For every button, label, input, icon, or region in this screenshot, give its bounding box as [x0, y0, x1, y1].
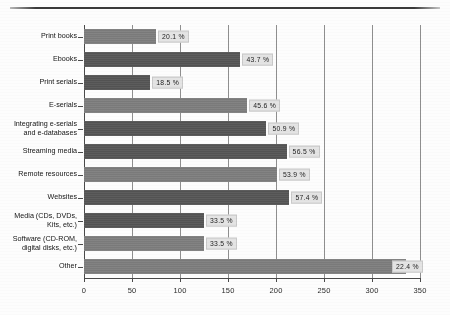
x-axis-line [84, 278, 420, 279]
bar[interactable] [84, 167, 277, 182]
bar-texture [84, 29, 156, 44]
bar-row[interactable]: 57.4 % [84, 190, 420, 205]
bar[interactable] [84, 29, 156, 44]
category-tick [78, 244, 83, 245]
bar-texture [84, 144, 287, 159]
bar-row[interactable]: 18.5 % [84, 75, 420, 90]
x-gridline [420, 25, 421, 278]
bar[interactable] [84, 259, 406, 274]
bar-texture [84, 75, 150, 90]
bar-value-label: 53.9 % [279, 168, 310, 181]
category-label: Print books [0, 25, 78, 48]
x-axis-tick [324, 278, 325, 282]
category-tick [78, 129, 83, 130]
category-tick [78, 152, 83, 153]
category-tick [78, 106, 83, 107]
category-label: Media (CDs, DVDs,Kits, etc.) [0, 209, 78, 232]
x-axis-tick-label: 300 [365, 286, 378, 295]
category-tick [78, 60, 83, 61]
bar[interactable] [84, 190, 289, 205]
category-label: Print serials [0, 71, 78, 94]
x-axis-tick-label: 250 [317, 286, 330, 295]
bar-texture [84, 236, 204, 251]
bar-value-label: 43.7 % [242, 53, 273, 66]
bar[interactable] [84, 121, 266, 136]
bar[interactable] [84, 213, 204, 228]
bar-row[interactable]: 56.5 % [84, 144, 420, 159]
bar-value-label: 22.4 % [392, 260, 423, 273]
bar-row[interactable]: 43.7 % [84, 52, 420, 67]
category-tick [78, 83, 83, 84]
x-axis-tick [180, 278, 181, 282]
bar[interactable] [84, 75, 150, 90]
x-axis-tick-label: 150 [221, 286, 234, 295]
bar-value-label: 33.5 % [206, 214, 237, 227]
x-axis-tick [132, 278, 133, 282]
category-label: Remote resources [0, 163, 78, 186]
x-axis-tick-label: 200 [269, 286, 282, 295]
bar-value-label: 50.9 % [268, 122, 299, 135]
x-axis-tick [228, 278, 229, 282]
category-label: E-serials [0, 94, 78, 117]
category-tick [78, 221, 83, 222]
plot-area: 20.1 %43.7 %18.5 %45.6 %50.9 %56.5 %53.9… [84, 25, 420, 278]
category-tick [78, 267, 83, 268]
category-label: Software (CD-ROM,digital disks, etc.) [0, 232, 78, 255]
bar-value-label: 45.6 % [249, 99, 280, 112]
chart-page: Print booksEbooksPrint serialsE-serialsI… [0, 0, 450, 315]
bar-row[interactable]: 50.9 % [84, 121, 420, 136]
bar-row[interactable]: 22.4 % [84, 259, 420, 274]
x-axis-tick-label: 350 [413, 286, 426, 295]
category-axis: Print booksEbooksPrint serialsE-serialsI… [0, 25, 78, 278]
bar-value-label: 56.5 % [289, 145, 320, 158]
bar-value-label: 57.4 % [291, 191, 322, 204]
bar[interactable] [84, 236, 204, 251]
bar-row[interactable]: 53.9 % [84, 167, 420, 182]
x-axis-tick [420, 278, 421, 282]
bar[interactable] [84, 144, 287, 159]
bar[interactable] [84, 52, 240, 67]
x-axis-tick [276, 278, 277, 282]
bar-texture [84, 52, 240, 67]
bar-texture [84, 190, 289, 205]
category-tick [78, 198, 83, 199]
x-axis-tick [84, 278, 85, 282]
bar-row[interactable]: 45.6 % [84, 98, 420, 113]
category-label: Integrating e-serialsand e-databases [0, 117, 78, 140]
bar-row[interactable]: 33.5 % [84, 236, 420, 251]
category-label: Other [0, 255, 78, 278]
bar-texture [84, 259, 406, 274]
bar-value-label: 20.1 % [158, 30, 189, 43]
category-label: Ebooks [0, 48, 78, 71]
bar-row[interactable]: 20.1 % [84, 29, 420, 44]
bar-value-label: 33.5 % [206, 237, 237, 250]
category-label: Streaming media [0, 140, 78, 163]
category-tick [78, 37, 83, 38]
x-axis-tick-label: 0 [82, 286, 86, 295]
category-label: Websites [0, 186, 78, 209]
page-top-rule [10, 7, 440, 9]
bar-row[interactable]: 33.5 % [84, 213, 420, 228]
bar-texture [84, 121, 266, 136]
bar-texture [84, 98, 247, 113]
bar-texture [84, 167, 277, 182]
category-tick [78, 175, 83, 176]
bar[interactable] [84, 98, 247, 113]
x-axis-tick [372, 278, 373, 282]
x-axis-tick-label: 50 [128, 286, 137, 295]
x-axis-tick-label: 100 [173, 286, 186, 295]
bar-value-label: 18.5 % [152, 76, 183, 89]
bar-texture [84, 213, 204, 228]
